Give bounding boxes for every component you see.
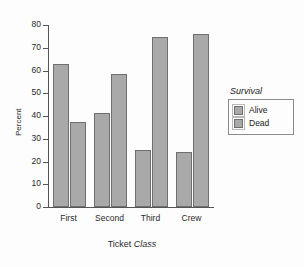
y-tick-mark: [43, 25, 48, 26]
y-tick-mark: [43, 93, 48, 94]
x-tick-label: First: [48, 213, 89, 224]
x-axis-title-plain: Ticket: [108, 239, 134, 249]
y-tick-label: 80: [32, 19, 41, 30]
y-tick-label: 70: [32, 42, 41, 53]
y-tick-mark: [43, 184, 48, 185]
y-tick-mark: [43, 71, 48, 72]
legend-title: Survival: [230, 86, 294, 96]
y-tick-label: 50: [32, 87, 41, 98]
bar: [53, 64, 69, 207]
bar: [193, 34, 209, 207]
bar: [70, 122, 86, 207]
bar: [176, 152, 192, 207]
y-tick-mark: [43, 48, 48, 49]
legend-swatch-frame: [232, 104, 245, 117]
y-tick-label: 60: [32, 65, 41, 76]
y-tick-label: 40: [32, 110, 41, 121]
x-tick-label: Crew: [171, 213, 212, 224]
chart-figure: 01020304050607080 FirstSecondThirdCrew P…: [0, 0, 304, 267]
bar: [135, 150, 151, 207]
legend-item[interactable]: Alive: [232, 104, 289, 117]
legend-label: Dead: [249, 118, 269, 129]
x-axis-title-italic: Class: [134, 239, 157, 249]
y-tick-mark: [43, 162, 48, 163]
y-axis-title: Percent: [8, 24, 17, 84]
legend-swatch-frame: [232, 117, 245, 130]
bar: [94, 113, 110, 207]
legend-box: AliveDead: [228, 99, 294, 135]
y-tick-label: 30: [32, 133, 41, 144]
x-axis-title: Ticket Class: [0, 239, 264, 249]
y-tick-label: 0: [36, 201, 41, 212]
y-axis-title-text: Percent: [14, 76, 23, 136]
y-tick-mark: [43, 116, 48, 117]
y-tick-mark: [43, 139, 48, 140]
bars-layer: [49, 20, 212, 212]
x-tick-label: Second: [89, 213, 130, 224]
legend: Survival AliveDead: [228, 86, 294, 135]
legend-label: Alive: [249, 105, 267, 116]
legend-item[interactable]: Dead: [232, 117, 289, 130]
plot-area: 01020304050607080 FirstSecondThirdCrew: [48, 20, 212, 212]
bar: [111, 74, 127, 207]
y-tick-mark: [43, 207, 48, 208]
legend-swatch: [234, 119, 243, 128]
bar: [152, 37, 168, 207]
y-tick-label: 10: [32, 178, 41, 189]
x-tick-label: Third: [130, 213, 171, 224]
y-tick-label: 20: [32, 156, 41, 167]
legend-swatch: [234, 106, 243, 115]
